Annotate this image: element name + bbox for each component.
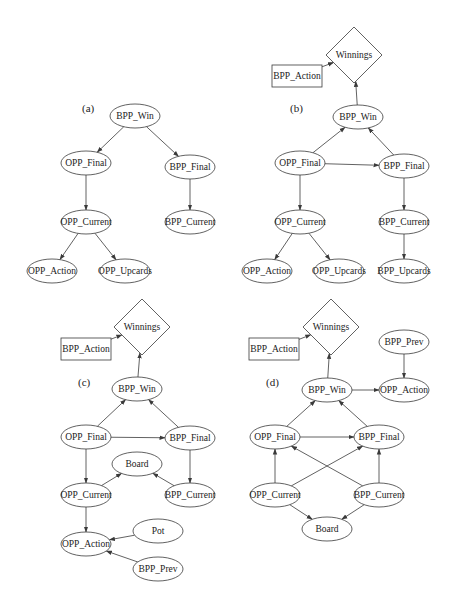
node-label: BPP_Action [250,344,298,354]
node-board: Board [112,452,162,476]
node-label: BPP_Win [308,385,346,395]
edge-bpp-win-to-bpp-final [146,127,178,157]
node-bpp-action: BPP_Action [272,65,322,87]
node-bpp-final: BPP_Final [165,155,215,179]
panel-label: (c) [78,376,91,389]
edge-opp-final-to-bpp-final [111,437,165,438]
edge-pot-to-opp-action [109,535,134,540]
node-bpp-action: BPP_Action [61,338,111,360]
edge-bpp-win-to-winnings [328,353,330,378]
edge-opp-final-to-bpp-final [325,164,379,166]
panel-a: BPP_WinOPP_FinalBPP_FinalOPP_CurrentBPP_… [27,102,216,283]
node-opp-upcards: OPP_Upcards [312,259,366,283]
node-label: BPP_Prev [384,337,423,347]
node-bpp-prev: BPP_Prev [379,330,429,354]
node-label: BPP_Final [169,162,211,172]
node-opp-final: OPP_Final [61,425,111,449]
node-label: OPP_Final [65,158,107,168]
node-label: OPP_Action [243,266,291,276]
node-bpp-upcards: BPP_Upcards [377,259,431,283]
node-winnings: Winnings [326,27,382,83]
panel-label: (d) [266,376,279,389]
node-bpp-win: BPP_Win [302,378,352,402]
node-opp-final: OPP_Final [250,425,300,449]
panel-d: WinningsBPP_ActionBPP_PrevBPP_WinOPP_Act… [249,299,429,541]
node-label: Pot [152,526,165,536]
node-opp-current: OPP_Current [60,483,112,507]
edge-opp-current-to-opp-upcards [309,233,330,260]
node-label: OPP_Current [60,217,112,227]
node-bpp-win: BPP_Win [110,104,160,128]
edge-opp-current-to-opp-action [275,233,293,259]
node-label: OPP_Action [28,266,76,276]
node-opp-current: OPP_Current [249,483,301,507]
node-opp-final: OPP_Final [61,151,111,175]
node-opp-final: OPP_Final [275,151,325,175]
edge-bpp-final-to-bpp-win [339,401,368,427]
node-label: BPP_Action [62,344,110,354]
edge-opp-current-to-board [290,505,312,520]
node-bpp-final: BPP_Final [379,154,429,178]
node-label: BPP_Current [354,490,405,500]
edge-bpp-action-to-winnings [299,335,311,340]
node-label: OPP_Action [62,539,110,549]
node-label: BPP_Prev [138,564,177,574]
panel-label: (a) [82,102,95,115]
node-label: BPP_Action [273,71,321,81]
node-label: BPP_Current [165,490,216,500]
node-bpp-final: BPP_Final [354,425,404,449]
panel-label: (b) [290,102,303,115]
node-label: OPP_Upcards [312,266,366,276]
node-label: OPP_Current [274,217,326,227]
node-bpp-current: BPP_Current [354,483,405,507]
node-bpp-current: BPP_Current [379,210,430,234]
edge-opp-final-to-bpp-win [313,127,345,152]
node-label: Winnings [313,322,350,332]
edge-bpp-current-to-board [342,505,364,520]
edge-bpp-win-to-winnings [356,81,358,105]
node-opp-action: OPP_Action [27,259,77,283]
node-label: BPP_Win [116,111,154,121]
node-label: OPP_Final [65,432,107,442]
node-label: Winnings [124,322,161,332]
node-label: OPP_Final [279,158,321,168]
node-bpp-action: BPP_Action [249,338,299,360]
edge-opp-final-to-bpp-win [97,400,125,427]
node-label: OPP_Current [60,490,112,500]
edge-bpp-current-to-board [153,473,174,485]
node-label: OPP_Action [380,385,428,395]
node-label: BPP_Current [165,217,216,227]
node-opp-action: OPP_Action [61,532,111,556]
node-label: Board [125,459,148,469]
node-winnings: Winnings [303,299,359,355]
node-bpp-current: BPP_Current [165,210,216,234]
node-label: BPP_Win [339,112,377,122]
node-winnings: Winnings [114,299,170,355]
node-opp-current: OPP_Current [60,210,112,234]
panel-c: WinningsBPP_ActionBPP_WinOPP_FinalBPP_Fi… [60,299,215,581]
node-opp-action: OPP_Action [379,378,429,402]
node-opp-upcards: OPP_Upcards [98,259,152,283]
node-label: BPP_Final [358,432,400,442]
node-pot: Pot [133,519,183,543]
edge-bpp-action-to-winnings [322,63,334,67]
node-label: BPP_Final [169,433,211,443]
edge-bpp-prev-to-opp-action [106,551,137,562]
node-bpp-current: BPP_Current [165,483,216,507]
node-opp-current: OPP_Current [274,210,326,234]
edge-bpp-win-to-winnings [138,353,140,377]
edge-bpp-action-to-winnings [111,335,122,339]
edge-opp-final-to-bpp-win [287,401,316,427]
node-label: BPP_Final [383,161,425,171]
node-bpp-win: BPP_Win [333,105,383,129]
node-label: OPP_Current [249,490,301,500]
node-opp-action: OPP_Action [242,259,292,283]
edge-bpp-final-to-bpp-win [368,128,393,155]
edge-bpp-final-to-bpp-win [149,400,179,428]
edge-opp-current-to-opp-action [60,233,78,259]
node-label: OPP_Upcards [98,266,152,276]
edge-bpp-win-to-opp-final [97,127,124,153]
bayesian-network-diagrams: BPP_WinOPP_FinalBPP_FinalOPP_CurrentBPP_… [0,0,454,604]
node-bpp-win: BPP_Win [112,377,162,401]
node-label: Board [315,524,338,534]
